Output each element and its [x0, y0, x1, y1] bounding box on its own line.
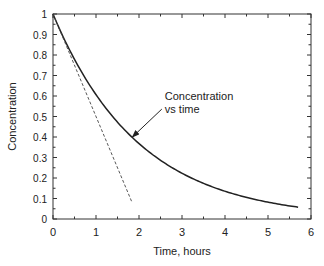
concentration-chart: 00.10.20.30.40.50.60.70.80.91 0123456 Co…: [0, 0, 324, 266]
x-axis-ticks: 0123456: [50, 14, 314, 238]
x-tick-label: 1: [93, 226, 99, 238]
x-tick-label: 6: [308, 226, 314, 238]
x-tick-label: 0: [50, 226, 56, 238]
y-tick-label: 0.1: [33, 194, 47, 205]
plot-frame: [53, 14, 311, 219]
annotation-arrow: [132, 109, 161, 137]
y-tick-label: 0.3: [33, 153, 47, 164]
y-tick-label: 0.9: [33, 30, 47, 41]
y-tick-label: 0.7: [33, 71, 47, 82]
y-tick-label: 0.5: [33, 112, 47, 123]
annotation-text: Concentration: [165, 90, 234, 102]
tangent-dashed-line: [53, 14, 132, 202]
x-tick-label: 2: [136, 226, 142, 238]
x-tick-label: 4: [222, 226, 228, 238]
x-axis-label: Time, hours: [153, 245, 211, 257]
y-axis-ticks: 00.10.20.30.40.50.60.70.80.91: [33, 9, 311, 225]
y-tick-label: 0.6: [33, 91, 47, 102]
annotation: Concentrationvs time: [132, 90, 233, 137]
y-tick-label: 0.2: [33, 173, 47, 184]
y-tick-label: 0.4: [33, 132, 47, 143]
y-tick-label: 1: [41, 9, 47, 20]
y-tick-label: 0.8: [33, 50, 47, 61]
y-axis-label: Concentration: [6, 82, 18, 151]
x-tick-label: 5: [265, 226, 271, 238]
y-tick-label: 0: [41, 214, 47, 225]
x-tick-label: 3: [179, 226, 185, 238]
annotation-text: vs time: [165, 103, 200, 115]
